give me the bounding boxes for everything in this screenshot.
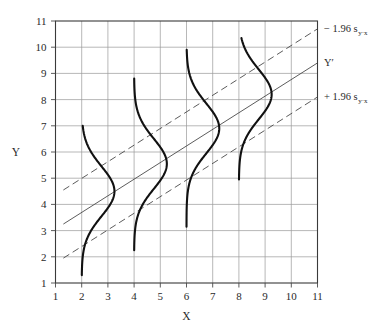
y-tick-label: 11 bbox=[36, 15, 47, 27]
x-tick-label: 3 bbox=[105, 290, 111, 302]
y-tick-label: 10 bbox=[36, 41, 48, 53]
x-tick-label: 9 bbox=[262, 290, 268, 302]
y-axis-title: Y bbox=[12, 146, 21, 158]
x-tick-label: 8 bbox=[236, 290, 242, 302]
y-tick-label: 8 bbox=[41, 94, 47, 106]
chart-background bbox=[0, 0, 379, 324]
x-tick-label: 2 bbox=[79, 290, 85, 302]
x-tick-label: 7 bbox=[210, 290, 216, 302]
y-tick-label: 1 bbox=[41, 277, 47, 289]
regression_line-label: Y′ bbox=[324, 57, 334, 68]
x-tick-label: 1 bbox=[53, 290, 59, 302]
y-tick-label: 5 bbox=[41, 172, 47, 184]
y-tick-label: 9 bbox=[41, 67, 47, 79]
y-tick-label: 3 bbox=[41, 225, 47, 237]
x-tick-label: 5 bbox=[158, 290, 164, 302]
x-tick-label: 6 bbox=[184, 290, 190, 302]
y-tick-label: 7 bbox=[41, 120, 47, 132]
regression-conditional-distributions-chart: 1234567891011 1234567891011 XY − 1.96 sy… bbox=[0, 0, 379, 324]
chart-svg: 1234567891011 1234567891011 XY − 1.96 sy… bbox=[0, 0, 379, 324]
y-tick-label: 4 bbox=[41, 198, 47, 210]
x-tick-label: 11 bbox=[312, 290, 323, 302]
x-tick-label: 10 bbox=[286, 290, 298, 302]
y-tick-label: 2 bbox=[41, 251, 47, 263]
y-tick-label: 6 bbox=[41, 146, 47, 158]
x-tick-label: 4 bbox=[131, 290, 137, 302]
x-axis-title: X bbox=[182, 310, 191, 322]
